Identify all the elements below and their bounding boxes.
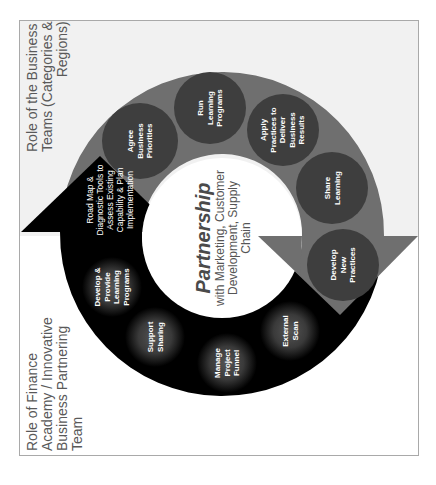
node-label-manage-project-funnel: Manage Project Funnel bbox=[213, 348, 242, 378]
node-line: Practices bbox=[348, 247, 358, 283]
node-line: Business bbox=[288, 107, 298, 152]
roadmap-arrow-text: Road Map & Diagnostic Tools to Assess Ex… bbox=[85, 164, 135, 235]
node-line: Programs bbox=[215, 89, 225, 126]
business-teams-label: Role of the Business Teams (Categories &… bbox=[25, 21, 70, 152]
node-line: Learning bbox=[112, 267, 122, 306]
node-line: Develop & bbox=[93, 267, 103, 306]
finance-academy-label: Role of Finance Academy / Innovative Bus… bbox=[25, 317, 85, 451]
node-line: Project bbox=[222, 348, 232, 378]
arrow-text-line: Capability & Plan bbox=[115, 164, 125, 235]
node-line: Priorities bbox=[145, 123, 155, 159]
node-line: Manage bbox=[213, 348, 223, 378]
node-line: Deliver bbox=[278, 107, 288, 152]
node-label-support-sharing: Support Sharing bbox=[146, 322, 165, 353]
label-line: Role of Finance bbox=[25, 317, 40, 451]
node-line: Sharing bbox=[155, 322, 165, 353]
center-partnership: Partnership with Marketing, Customer Dev… bbox=[192, 170, 253, 306]
label-line: Business Partnering bbox=[55, 317, 70, 451]
node-label-share-learning: Share Learning bbox=[323, 171, 342, 205]
center-subtitle-line: Chain bbox=[240, 170, 253, 306]
node-line: Practices to bbox=[269, 107, 279, 152]
node-line: Funnel bbox=[232, 348, 242, 378]
node-label-develop-provide-learning: Develop & Provide Learning Programs bbox=[93, 267, 131, 306]
node-line: Develop bbox=[329, 247, 339, 283]
arrow-text-line: Assess Existing bbox=[105, 164, 115, 235]
node-label-develop-new-practices: Develop New Practices bbox=[329, 247, 358, 283]
node-label-run-learning-programs: Run Learning Programs bbox=[196, 89, 225, 126]
arrow-text-line: Implementation bbox=[125, 164, 135, 235]
node-line: External bbox=[281, 315, 291, 347]
node-line: Apply bbox=[259, 107, 269, 152]
center-title: Partnership bbox=[192, 170, 214, 306]
node-line: Provide bbox=[103, 267, 113, 306]
arrow-text-line: Diagnostic Tools to bbox=[95, 164, 105, 235]
label-line: Role of the Business bbox=[25, 21, 40, 152]
node-line: Programs bbox=[122, 267, 132, 306]
node-line: Learning bbox=[205, 89, 215, 126]
node-line: Share bbox=[323, 171, 333, 205]
node-line: Agree bbox=[126, 123, 136, 159]
node-line: Results bbox=[297, 107, 307, 152]
label-line: Teams (Categories & bbox=[40, 21, 55, 152]
node-line: Business bbox=[135, 123, 145, 159]
node-line: Learning bbox=[332, 171, 342, 205]
arrow-text-line: Road Map & bbox=[85, 164, 95, 235]
node-line: New bbox=[338, 247, 348, 283]
node-line: Scan bbox=[290, 315, 300, 347]
node-label-agree-business-priorities: Agree Business Priorities bbox=[126, 123, 155, 159]
label-line: Regions) bbox=[55, 21, 70, 152]
node-label-apply-practices: Apply Practices to Deliver Business Resu… bbox=[259, 107, 307, 152]
node-line: Support bbox=[146, 322, 156, 353]
node-label-external-scan: External Scan bbox=[281, 315, 300, 347]
label-line: Academy / Innovative bbox=[40, 317, 55, 451]
label-line: Team bbox=[70, 317, 85, 451]
node-line: Run bbox=[196, 89, 206, 126]
